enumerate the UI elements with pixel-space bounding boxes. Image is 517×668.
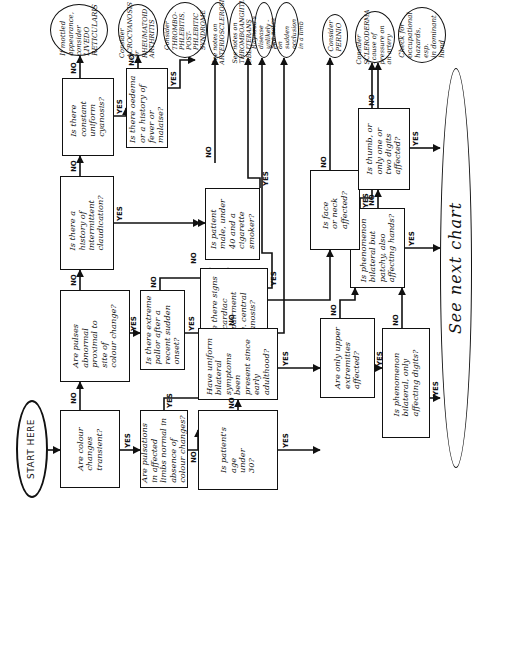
outcome-thrombophlebitis-top: Consider THROMBO- PHLEBITIS, POST-PHLEBI… xyxy=(163,2,207,58)
question-bilateral-digits: Is phenomenon bilateral, only affecting … xyxy=(382,328,430,438)
question-male-smoker: Is patient male, under 40 and a cigarett… xyxy=(205,188,260,260)
question-uniform-bilateral: Have uniform bilateral symptoms been pre… xyxy=(198,328,278,400)
question-extreme-pallor: Is there extreme pallor after a recent s… xyxy=(140,290,185,370)
question-upper-extremities: Are only upper extremities affected? xyxy=(320,318,375,398)
outcome-pernio: Consider PERNIO xyxy=(322,14,348,58)
label-yes: YES xyxy=(166,393,174,408)
label-yes: YES xyxy=(362,193,370,208)
label-yes: YES xyxy=(376,351,384,366)
outcome-occupational-hazards: Check for occupational hazards, esp. in … xyxy=(398,7,446,63)
label-no: NO xyxy=(150,276,158,288)
label-no: NO xyxy=(368,94,376,106)
label-yes: YES xyxy=(412,131,420,146)
label-yes: YES xyxy=(130,316,138,331)
outcome-livedo-reticularis: If mottled appearance, consider LIVEDO R… xyxy=(50,4,108,56)
question-oedema-fever: Is there oedema or a history of fever or… xyxy=(126,68,168,148)
label-no: NO xyxy=(205,146,213,158)
flowchart-canvas: START HERE Are colour changes transient?… xyxy=(0,0,517,668)
label-no: NO xyxy=(330,304,338,316)
question-colour-transient: Are colour changes transient? xyxy=(60,410,120,488)
label-no: NO xyxy=(128,54,136,66)
label-no: NO xyxy=(70,392,78,404)
question-age-under-30: Is patient's age under 30? xyxy=(198,410,278,490)
outcome-arteriosclerosis: See notes on ARTERIOSCLEROSIS xyxy=(207,2,229,58)
question-constant-cyanosis: Is there constant uniform cyanosis? xyxy=(62,78,114,156)
outcome-acrocyanosis: Consider ACROCYANOSIS or RHEUMATOID ARTH… xyxy=(118,4,158,56)
label-yes: YES xyxy=(270,271,278,286)
question-claudication: Is there a history of intermittent claud… xyxy=(60,176,114,270)
question-face-neck: Is face or neck affected? xyxy=(310,170,360,250)
label-yes: YES xyxy=(116,99,124,114)
label-no: NO xyxy=(70,160,78,172)
label-no: NO xyxy=(190,252,198,264)
label-no: NO xyxy=(228,397,236,409)
label-no: NO xyxy=(70,274,78,286)
label-no: NO xyxy=(392,314,400,326)
label-yes: YES xyxy=(170,71,178,86)
outcome-sudden-occlusion: See notes on sudden occlusion in a limb xyxy=(274,2,299,58)
label-no: NO xyxy=(228,314,236,326)
label-yes: YES xyxy=(432,381,440,396)
question-pulses-abnormal: Are pulses abnormal proximal to site of … xyxy=(60,290,130,382)
label-yes: YES xyxy=(262,171,270,186)
outcome-see-next-chart: See next chart xyxy=(440,68,472,468)
question-pulsations-normal: Are pulsations in affected limbs normal … xyxy=(140,410,188,488)
label-no: NO xyxy=(70,62,78,74)
label-no: NO xyxy=(320,156,328,168)
outcome-scleroderma: Consider SCLERODERMA - cause of pressure… xyxy=(355,11,395,63)
label-yes: YES xyxy=(282,433,290,448)
label-yes: YES xyxy=(116,206,124,221)
label-yes: YES xyxy=(282,351,290,366)
label-yes: YES xyxy=(124,433,132,448)
question-thumb-digits: Is thumb, or only one or two digits affe… xyxy=(358,108,410,190)
start-node: START HERE xyxy=(16,400,48,498)
label-no: NO xyxy=(190,451,198,463)
label-yes: YES xyxy=(188,316,196,331)
label-yes: YES xyxy=(408,231,416,246)
